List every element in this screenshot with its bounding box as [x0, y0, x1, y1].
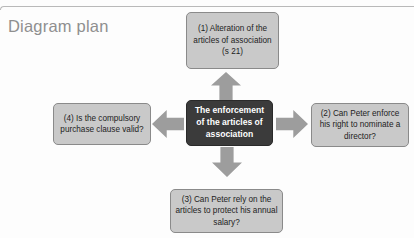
diagram-node-center-label: The enforcement of the articles of assoc… — [190, 105, 269, 140]
arrow-right-icon — [276, 110, 308, 138]
arrow-down-icon — [212, 147, 242, 177]
arrow-left-icon — [152, 110, 184, 138]
page-title: Diagram plan — [8, 17, 109, 36]
diagram-node-bottom-label: (3) Can Peter rely on the articles to pr… — [174, 194, 279, 228]
diagram-node-left: (4) Is the compulsory purchase clause va… — [53, 103, 151, 145]
page-top-rule — [0, 6, 414, 10]
diagram-node-center: The enforcement of the articles of assoc… — [186, 100, 273, 146]
diagram-node-right-label: (2) Can Peter enforce his right to nomin… — [315, 108, 405, 142]
diagram-page: Diagram plan (1) Alteration of the artic… — [0, 0, 414, 238]
diagram-node-bottom: (3) Can Peter rely on the articles to pr… — [170, 189, 283, 233]
arrow-up-icon — [211, 72, 241, 100]
diagram-node-top-label: (1) Alteration of the articles of associ… — [190, 23, 275, 57]
diagram-node-left-label: (4) Is the compulsory purchase clause va… — [57, 113, 147, 136]
diagram-node-top: (1) Alteration of the articles of associ… — [186, 12, 279, 69]
diagram-node-right: (2) Can Peter enforce his right to nomin… — [311, 103, 409, 147]
